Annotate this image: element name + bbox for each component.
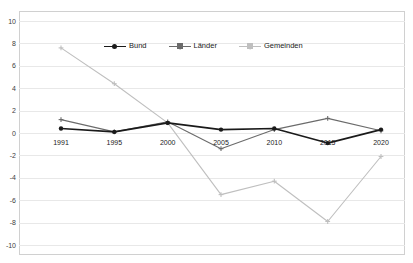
line-chart: 1086420-2-4-6-8-10 199119952000200520102…: [0, 0, 413, 263]
y-axis-tick-label: 10: [0, 18, 16, 25]
legend-item-bund[interactable]: Bund: [104, 42, 147, 50]
legend-marker-icon: [104, 42, 126, 50]
legend-label: Gemeinden: [264, 42, 303, 50]
legend-item-gemeinden[interactable]: Gemeinden: [239, 42, 303, 50]
data-point: [379, 127, 383, 131]
y-axis-tick-label: -6: [0, 197, 16, 204]
y-axis-tick-label: 2: [0, 107, 16, 114]
x-axis-tick-label: 2000: [160, 139, 176, 146]
data-point: [59, 117, 64, 122]
y-axis-tick-label: 8: [0, 40, 16, 47]
data-point: [59, 126, 63, 130]
chart-legend: BundLänderGemeinden: [104, 42, 303, 50]
legend-label: Länder: [194, 42, 217, 50]
x-axis-tick-label: 2010: [267, 139, 283, 146]
y-axis-tick-label: 6: [0, 62, 16, 69]
legend-marker-icon: [169, 42, 191, 50]
data-point: [166, 121, 170, 125]
x-axis-tick-label: 2015: [320, 139, 336, 146]
x-axis-tick-label: 1995: [107, 139, 123, 146]
y-axis-tick-label: -4: [0, 174, 16, 181]
data-point: [272, 126, 276, 130]
legend-item-länder[interactable]: Länder: [169, 42, 217, 50]
data-point: [112, 130, 116, 134]
data-point: [219, 127, 223, 131]
x-axis-tick-label: 2020: [373, 139, 389, 146]
data-point: [325, 116, 330, 121]
y-axis-tick-label: -8: [0, 219, 16, 226]
legend-marker-icon: [239, 42, 261, 50]
x-axis-tick-label: 1991: [53, 139, 69, 146]
y-axis-tick-label: 4: [0, 85, 16, 92]
legend-label: Bund: [129, 42, 147, 50]
y-axis-tick-label: -10: [0, 242, 16, 249]
data-point: [219, 146, 224, 151]
y-axis-tick-label: 0: [0, 130, 16, 137]
x-axis-tick-label: 2005: [213, 139, 229, 146]
y-axis-tick-label: -2: [0, 152, 16, 159]
